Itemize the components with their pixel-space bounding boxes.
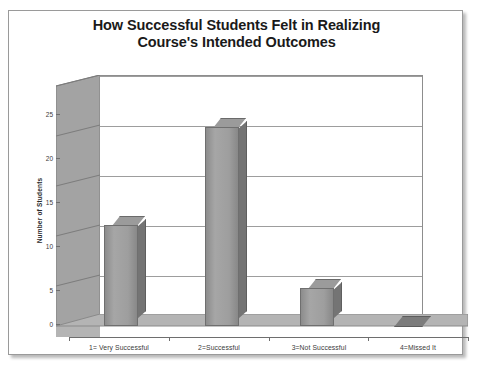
y-tick-label-15: 15	[31, 199, 53, 206]
bar-3[interactable]	[300, 279, 342, 326]
plot-left-wall	[56, 75, 100, 337]
x-tick-label-4: 4=Missed It	[363, 344, 473, 351]
bar-2[interactable]	[205, 118, 247, 326]
y-tick-mark-5	[56, 290, 60, 291]
bar-2-side-face	[238, 121, 247, 319]
gridline-10	[100, 226, 422, 227]
x-tick-mark-3	[269, 337, 270, 341]
x-tick-mark-4	[368, 337, 369, 341]
y-tick-mark-0	[56, 324, 60, 325]
y-axis-title: Number of Students	[36, 166, 43, 256]
x-tick-label-1: 1= Very Successful	[64, 344, 174, 351]
bar-3-front-face	[300, 288, 334, 326]
gridline-20	[100, 126, 422, 127]
x-tick-mark-5	[468, 337, 469, 341]
bar-2-front-face	[205, 127, 239, 326]
y-tick-label-25: 25	[31, 111, 53, 118]
bar-3-side-face	[333, 282, 342, 319]
gridline-15	[100, 176, 422, 177]
chart-card: How Successful Students Felt in Realizin…	[8, 10, 463, 355]
y-tick-label-10: 10	[31, 243, 53, 250]
gridline-25	[100, 76, 422, 77]
y-tick-mark-20	[56, 158, 60, 159]
bar-1[interactable]	[104, 216, 146, 326]
bar-4-top-face	[394, 316, 431, 327]
y-tick-label-0: 0	[31, 321, 53, 328]
bar-4[interactable]	[390, 316, 432, 328]
gridline-5	[100, 276, 422, 277]
bar-1-front-face	[104, 225, 138, 326]
x-tick-mark-1	[69, 337, 70, 341]
x-tick-mark-2	[169, 337, 170, 341]
x-tick-label-2: 2=Successful	[164, 344, 274, 351]
plot-back-wall	[100, 75, 423, 326]
y-tick-mark-25	[56, 114, 60, 115]
y-tick-label-5: 5	[31, 287, 53, 294]
y-tick-label-20: 20	[31, 155, 53, 162]
x-tick-label-3: 3=Not Successful	[264, 344, 374, 351]
chart-title-line-2: Course's Intended Outcomes	[39, 34, 434, 51]
bar-1-side-face	[137, 219, 146, 319]
y-tick-mark-15	[56, 202, 60, 203]
chart-title: How Successful Students Felt in Realizin…	[39, 17, 434, 51]
y-tick-mark-10	[56, 246, 60, 247]
chart-title-line-1: How Successful Students Felt in Realizin…	[93, 17, 381, 33]
